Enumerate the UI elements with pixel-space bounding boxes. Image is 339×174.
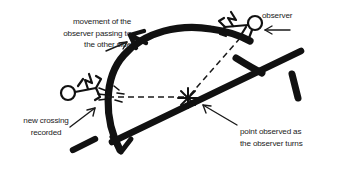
diagram-canvas: movement of the observer passing to the … (0, 0, 339, 174)
star-burst-icon (178, 88, 198, 108)
stick-figure-left-icon (61, 74, 101, 100)
label-observer: observer (262, 10, 332, 22)
boundary-line-stub (73, 139, 95, 150)
label-new-crossing: new crossing recorded (2, 115, 90, 138)
arrow-point-observed-icon (203, 105, 237, 125)
arc-segment-c (292, 74, 298, 98)
label-movement: movement of the observer passing to the … (0, 16, 131, 51)
arrow-observer-icon (265, 26, 290, 34)
label-point-observed: point observed as the observer turns (240, 126, 337, 149)
